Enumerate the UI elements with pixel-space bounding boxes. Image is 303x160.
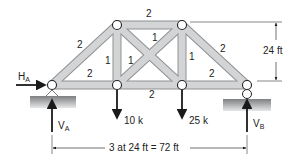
load-label-25k: 25 k [189, 115, 209, 126]
joint-a [48, 81, 57, 90]
label-right-diagonal: 2 [220, 43, 226, 54]
roller-support-b-icon [243, 90, 252, 99]
pin-support-a-icon [46, 90, 58, 96]
span-dimension-label: 3 at 24 ft = 72 ft [109, 142, 179, 153]
joint-top-1 [113, 21, 122, 30]
reaction-label-va: VA [58, 120, 70, 132]
joint-bottom-1 [113, 81, 122, 90]
label-bottom-right: 2 [209, 68, 215, 79]
label-bottom-middle: 2 [149, 89, 155, 100]
support-a-ground [30, 96, 76, 108]
label-right-vertical: 1 [189, 51, 195, 62]
reaction-label-vb: VB [253, 118, 265, 130]
joint-bottom-2 [178, 81, 187, 90]
label-top-chord: 2 [146, 8, 152, 19]
height-dimension-label: 24 ft [263, 45, 283, 56]
label-cross-b: 1 [152, 32, 158, 43]
label-left-vertical: 1 [105, 55, 111, 66]
joint-top-2 [178, 21, 187, 30]
label-bottom-left: 2 [87, 68, 93, 79]
truss-diagram: 2 2 2 2 2 2 1 1 1 1 10 k 25 k HA VA VB 2… [0, 0, 303, 160]
reaction-label-ha: HA [18, 71, 30, 83]
label-cross-a: 1 [128, 55, 134, 66]
label-left-diagonal: 2 [77, 39, 83, 50]
load-label-10k: 10 k [124, 115, 144, 126]
joint-b [243, 81, 252, 90]
truss-svg: 2 2 2 2 2 2 1 1 1 1 10 k 25 k HA VA VB 2… [0, 0, 303, 160]
